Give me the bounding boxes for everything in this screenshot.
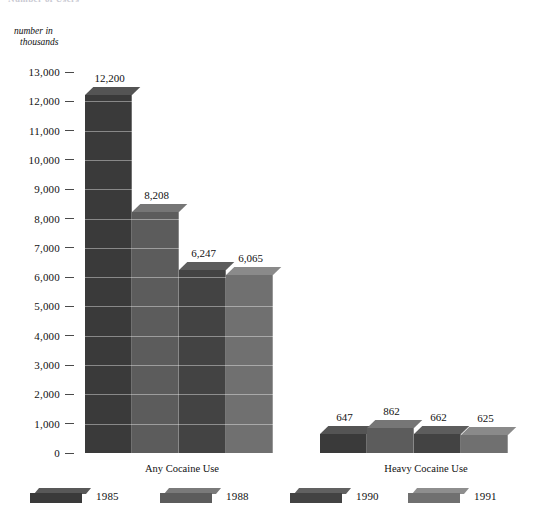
bar-gridline (132, 336, 179, 337)
chart-canvas: Number of Users number in thousands 13,0… (0, 0, 537, 521)
bar-edge-line (272, 275, 273, 453)
bar-gridline (179, 394, 226, 395)
legend-item-1985[interactable]: 1985 (30, 488, 119, 503)
bar-gridline (226, 306, 273, 307)
bar-front-face (320, 434, 367, 453)
legend-label: 1985 (96, 490, 119, 502)
bar-gridline (132, 277, 179, 278)
bar-gridline (226, 424, 273, 425)
legend-swatch (408, 488, 464, 503)
bar-gridline (132, 365, 179, 366)
bar-gridline (132, 424, 179, 425)
group-label: Heavy Cocaine Use (346, 463, 506, 474)
bar-gridline (226, 365, 273, 366)
bar-gridline (179, 336, 226, 337)
bar-value-label: 625 (455, 412, 516, 424)
legend-label: 1990 (356, 490, 379, 502)
bar-gridline (132, 306, 179, 307)
bar-front-face (226, 275, 273, 453)
legend-swatch (290, 488, 346, 503)
legend-item-1990[interactable]: 1990 (290, 488, 379, 503)
bar-gridline (85, 101, 132, 102)
bar (226, 267, 273, 453)
group-label: Any Cocaine Use (102, 463, 262, 474)
bar-value-label: 8,208 (126, 189, 187, 201)
bar-gridline (85, 336, 132, 337)
bar (320, 426, 367, 453)
bar (179, 262, 226, 453)
bar (85, 87, 132, 453)
bar-front-face (132, 212, 179, 453)
legend-item-1991[interactable]: 1991 (408, 488, 497, 503)
bar-edge-line (507, 435, 508, 453)
chart-legend: 1985198819901991 (0, 488, 537, 521)
legend-swatch-face (290, 493, 342, 503)
bar-gridline (85, 306, 132, 307)
bar-gridline (179, 277, 226, 278)
bar-value-label: 6,065 (220, 252, 281, 264)
legend-swatch-face (30, 493, 82, 503)
bar-front-face (367, 428, 414, 453)
bar-gridline (85, 160, 132, 161)
bar (132, 204, 179, 453)
bar-gridline (85, 277, 132, 278)
bar-gridline (85, 365, 132, 366)
bar-top-face (85, 87, 140, 95)
bar-front-face (85, 95, 132, 453)
bar-front-face (179, 270, 226, 453)
legend-item-1988[interactable]: 1988 (160, 488, 249, 503)
bar-gridline (226, 394, 273, 395)
bar (414, 426, 461, 453)
bar (461, 427, 508, 453)
bar-gridline (132, 248, 179, 249)
legend-label: 1988 (226, 490, 249, 502)
bar-gridline (132, 394, 179, 395)
bar-top-face (461, 427, 516, 435)
bar-gridline (85, 424, 132, 425)
bar-gridline (179, 306, 226, 307)
bar-front-face (461, 435, 508, 453)
bar-gridline (85, 189, 132, 190)
bar-front-face (414, 434, 461, 453)
legend-swatch (30, 488, 86, 503)
bar-gridline (85, 131, 132, 132)
bar-gridline (85, 248, 132, 249)
bar-gridline (226, 336, 273, 337)
legend-label: 1991 (474, 490, 497, 502)
bar-gridline (179, 365, 226, 366)
legend-swatch (160, 488, 216, 503)
legend-swatch-face (160, 493, 212, 503)
bar-gridline (132, 219, 179, 220)
bar (367, 420, 414, 453)
bar-top-face (226, 267, 281, 275)
legend-swatch-face (408, 493, 460, 503)
bar-top-face (132, 204, 187, 212)
bar-gridline (85, 219, 132, 220)
plot-area: 12,2008,2086,2476,065647862662625 (0, 0, 537, 521)
bar-gridline (85, 394, 132, 395)
bar-value-label: 12,200 (79, 72, 140, 84)
bar-gridline (179, 424, 226, 425)
